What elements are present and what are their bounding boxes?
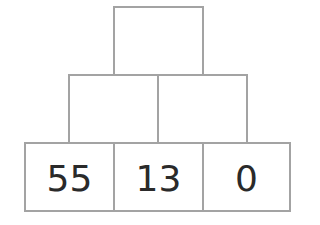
pyramid-cell-bottom-right: 0 — [202, 142, 291, 212]
pyramid-cell-middle-right[interactable] — [157, 74, 248, 144]
pyramid-cell-bottom-middle: 13 — [113, 142, 204, 212]
pyramid-cell-middle-left[interactable] — [68, 74, 159, 144]
pyramid-cell-top[interactable] — [113, 6, 204, 76]
pyramid-cell-bottom-left: 55 — [24, 142, 115, 212]
